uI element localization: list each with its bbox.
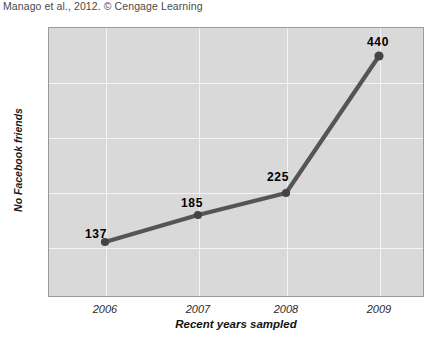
x-tick-label-2006: 2006 xyxy=(70,303,140,315)
data-label-2006: 137 xyxy=(69,227,123,241)
data-label-2009: 440 xyxy=(351,35,405,49)
x-tick-label-2008: 2008 xyxy=(251,303,321,315)
gridline-vertical-2007 xyxy=(199,28,200,296)
source-caption: Manago et al., 2012. © Cengage Learning xyxy=(3,0,203,12)
x-tick-label-2007: 2007 xyxy=(163,303,233,315)
gridline-vertical-2008 xyxy=(287,28,288,296)
gridline-vertical-2009 xyxy=(380,28,381,296)
y-axis-title: No Facebook friends xyxy=(12,80,24,240)
x-axis-title: Recent years sampled xyxy=(48,318,424,330)
chart-figure: Manago et al., 2012. © Cengage Learning … xyxy=(0,0,434,337)
plot-area xyxy=(48,27,424,297)
gridline-vertical-2006 xyxy=(106,28,107,296)
x-tick-label-2009: 2009 xyxy=(344,303,414,315)
data-label-2008: 225 xyxy=(251,170,305,184)
data-label-2007: 185 xyxy=(165,196,219,210)
